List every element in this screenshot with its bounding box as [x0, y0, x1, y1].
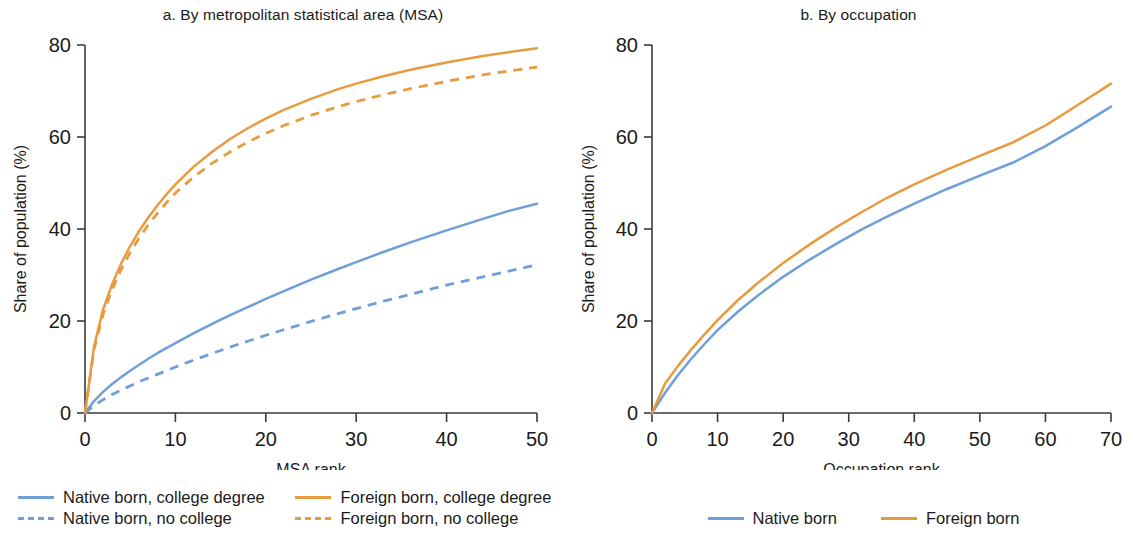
x-tick-label: 50 — [969, 428, 991, 450]
x-tick-label: 0 — [646, 428, 657, 450]
y-tick-label: 0 — [627, 402, 638, 424]
legend-swatch-native-college — [18, 496, 54, 499]
x-tick-label: 70 — [1100, 428, 1122, 450]
panel-a-plot: 02040608001020304050MSA rankShare of pop… — [0, 0, 566, 470]
panel-a-legend: Native born, college degree Foreign born… — [0, 488, 566, 528]
figure-container: a. By metropolitan statistical area (MSA… — [0, 0, 1131, 534]
legend-item-native-no-college[interactable]: Native born, no college — [18, 509, 279, 528]
y-tick-label: 40 — [49, 218, 71, 240]
legend-label-foreign-no-college: Foreign born, no college — [340, 509, 518, 528]
x-tick-label: 0 — [79, 428, 90, 450]
legend-label-native-born: Native born — [753, 509, 837, 528]
legend-item-native-born[interactable]: Native born — [708, 509, 837, 528]
x-tick-label: 60 — [1034, 428, 1056, 450]
x-tick-label: 50 — [526, 428, 548, 450]
series-foreign-born-college-degree — [85, 48, 537, 413]
y-tick-label: 80 — [616, 34, 638, 56]
x-axis-title: Occupation rank — [823, 461, 941, 470]
y-tick-label: 60 — [616, 126, 638, 148]
legend-item-foreign-born[interactable]: Foreign born — [881, 509, 1020, 528]
legend-item-foreign-college[interactable]: Foreign born, college degree — [295, 488, 566, 507]
x-tick-label: 40 — [435, 428, 457, 450]
y-axis-title: Share of population (%) — [580, 145, 597, 313]
legend-label-native-college: Native born, college degree — [63, 488, 265, 507]
legend-label-foreign-college: Foreign born, college degree — [340, 488, 551, 507]
x-tick-label: 10 — [164, 428, 186, 450]
legend-item-foreign-no-college[interactable]: Foreign born, no college — [295, 509, 566, 528]
y-axis-title: Share of population (%) — [12, 145, 29, 313]
series-foreign-born-no-college — [85, 67, 537, 413]
y-tick-label: 0 — [60, 402, 71, 424]
legend-swatch-native-no-college — [18, 517, 54, 520]
legend-label-native-no-college: Native born, no college — [63, 509, 232, 528]
y-tick-label: 20 — [616, 310, 638, 332]
x-tick-label: 10 — [706, 428, 728, 450]
x-tick-label: 40 — [903, 428, 925, 450]
panel-b-legend: Native born Foreign born — [566, 509, 1131, 528]
chart-panel-a: a. By metropolitan statistical area (MSA… — [0, 0, 566, 534]
y-tick-label: 60 — [49, 126, 71, 148]
legend-swatch-foreign-college — [295, 496, 331, 499]
series-native-born — [652, 107, 1111, 413]
legend-label-foreign-born: Foreign born — [926, 509, 1020, 528]
x-tick-label: 20 — [255, 428, 277, 450]
x-tick-label: 20 — [772, 428, 794, 450]
series-foreign-born — [652, 84, 1111, 413]
legend-swatch-foreign-no-college — [295, 517, 331, 520]
y-tick-label: 80 — [49, 34, 71, 56]
series-native-born-college-degree — [85, 204, 537, 413]
series-native-born-no-college — [85, 265, 537, 413]
x-axis-title: MSA rank — [276, 461, 346, 470]
y-tick-label: 20 — [49, 310, 71, 332]
y-tick-label: 40 — [616, 218, 638, 240]
panel-b-plot: 020406080010203040506070Occupation rankS… — [566, 0, 1131, 470]
legend-swatch-foreign-born — [881, 517, 917, 520]
x-tick-label: 30 — [838, 428, 860, 450]
legend-swatch-native-born — [708, 517, 744, 520]
chart-panel-b: b. By occupation 02040608001020304050607… — [566, 0, 1131, 534]
legend-item-native-college[interactable]: Native born, college degree — [18, 488, 279, 507]
x-tick-label: 30 — [345, 428, 367, 450]
